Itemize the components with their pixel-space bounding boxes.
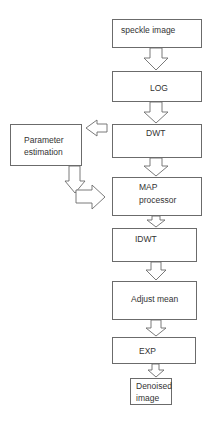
arrow-right-icon <box>76 185 105 209</box>
arrow-down-icon <box>146 262 166 280</box>
map-processor-node: MAP processor <box>112 177 202 216</box>
arrow-down-icon <box>144 158 168 176</box>
exp-node: EXP <box>112 337 196 364</box>
log-node: LOG <box>112 71 202 102</box>
node-label-line1: Denoised <box>136 380 172 392</box>
idwt-node: IDWT <box>112 228 197 262</box>
arrow-down-icon <box>148 364 164 377</box>
arrow-left-icon <box>86 120 107 136</box>
speckle-image-node: speckle image <box>112 19 202 48</box>
dwt-node: DWT <box>112 124 202 158</box>
node-label-line1: MAP <box>139 181 157 193</box>
arrow-down-icon <box>147 216 165 227</box>
arrow-down-icon <box>65 166 85 193</box>
arrow-down-icon <box>144 102 168 123</box>
node-label-line2: estimation <box>24 146 63 158</box>
arrow-down-icon <box>146 320 166 336</box>
node-label-line2: processor <box>139 194 176 206</box>
node-label: DWT <box>146 127 165 139</box>
denoised-image-node: Denoised image <box>130 378 172 405</box>
node-label: speckle image <box>121 24 175 36</box>
adjust-mean-node: Adjust mean <box>112 281 197 320</box>
parameter-estimation-node: Parameter estimation <box>10 124 82 166</box>
node-label: Adjust mean <box>131 293 178 305</box>
node-label: EXP <box>139 345 156 357</box>
node-label-line2: image <box>136 392 159 404</box>
node-label: IDWT <box>135 233 157 245</box>
node-label-line1: Parameter <box>24 134 64 146</box>
node-label: LOG <box>150 82 168 94</box>
arrow-down-icon <box>144 48 168 70</box>
